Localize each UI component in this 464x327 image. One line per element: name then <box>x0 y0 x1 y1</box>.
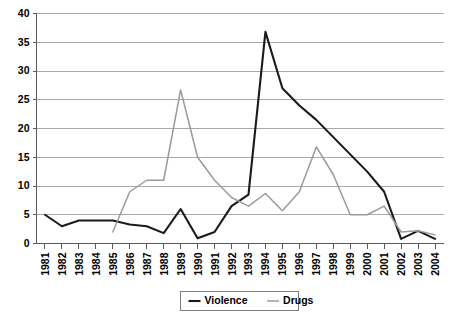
x-tick-label: 1996 <box>293 252 305 276</box>
y-tick-label: 0 <box>24 237 30 249</box>
x-tick-label: 1990 <box>192 252 204 276</box>
x-tick-label: 1985 <box>107 252 119 276</box>
x-tick-label: 1991 <box>209 252 221 276</box>
x-tick-label: 1987 <box>141 252 153 276</box>
x-tick-label: 1984 <box>90 252 102 276</box>
y-tick-label: 30 <box>18 64 30 76</box>
y-tick-label: 5 <box>24 208 30 220</box>
x-tick-label: 2000 <box>361 252 373 276</box>
x-tick-label: 1982 <box>56 252 68 276</box>
chart-canvas: 0510152025303540 19811982198319841985198… <box>0 0 464 327</box>
data-series <box>45 32 435 239</box>
series-line-drugs <box>113 90 435 235</box>
chart-legend: ViolenceDrugs <box>181 292 314 311</box>
y-tick-label: 15 <box>18 151 30 163</box>
x-tick-label: 1983 <box>73 252 85 276</box>
x-tick-label: 2001 <box>378 252 390 276</box>
y-tick-label: 25 <box>18 93 30 105</box>
x-tick-label: 1995 <box>276 252 288 276</box>
series-line-violence <box>45 32 435 239</box>
x-tick-label: 1993 <box>242 252 254 276</box>
y-tick-label: 20 <box>18 122 30 134</box>
legend-label-violence: Violence <box>205 294 248 306</box>
gridlines <box>37 14 444 244</box>
x-axis: 1981198219831984198519861987198819891990… <box>37 244 444 276</box>
x-tick-label: 2002 <box>395 252 407 276</box>
x-tick-label: 1999 <box>344 252 356 276</box>
x-tick-label: 1998 <box>327 252 339 276</box>
x-tick-label: 1994 <box>259 252 271 276</box>
x-tick-label: 1997 <box>310 252 322 276</box>
x-tick-label: 1986 <box>124 252 136 276</box>
x-tick-label: 2004 <box>429 252 441 276</box>
x-tick-label: 1988 <box>158 252 170 276</box>
x-tick-label: 2003 <box>412 252 424 276</box>
y-tick-label: 10 <box>18 179 30 191</box>
y-tick-label: 35 <box>18 36 30 48</box>
x-tick-label: 1989 <box>175 252 187 276</box>
x-tick-label: 1992 <box>226 252 238 276</box>
y-tick-label: 40 <box>18 7 30 19</box>
y-axis: 0510152025303540 <box>18 7 37 249</box>
line-chart: 0510152025303540 19811982198319841985198… <box>0 0 464 327</box>
x-tick-label: 1981 <box>39 252 51 276</box>
legend-label-drugs: Drugs <box>283 294 313 306</box>
